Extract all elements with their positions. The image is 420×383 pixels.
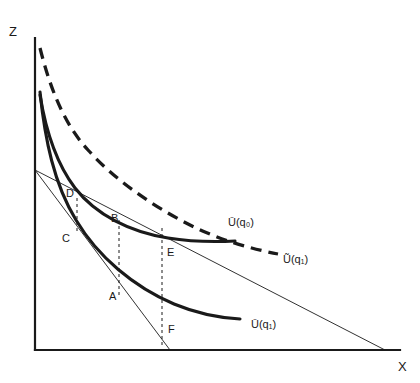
curve-label-u-tilde-q1: Ũ(q₁) — [283, 253, 308, 265]
indifference-curve-u-q1 — [40, 92, 240, 319]
point-label-b: B — [111, 212, 118, 224]
budget-lines-group — [35, 170, 385, 350]
budget-line-steep — [35, 170, 170, 350]
curve-label-u-q1: Ū(q₁) — [251, 318, 276, 330]
x-axis-label: X — [398, 359, 407, 374]
point-label-f: F — [168, 323, 175, 335]
figure-canvas: Z X D B C E A F Ū(q₀) Ũ(q₁) Ū(q₁) — [0, 0, 420, 383]
axes-group — [35, 38, 400, 350]
z-axis-label: Z — [9, 24, 17, 39]
point-label-d: D — [66, 187, 74, 199]
budget-line-flat — [35, 170, 385, 350]
indifference-curve-u-q0 — [40, 95, 235, 242]
point-label-c: C — [62, 232, 70, 244]
curve-label-u-q0: Ū(q₀) — [228, 216, 254, 228]
point-label-a: A — [109, 290, 117, 302]
point-label-e: E — [167, 246, 174, 258]
indifference-curve-figure: Z X D B C E A F Ū(q₀) Ũ(q₁) Ū(q₁) — [0, 0, 420, 383]
